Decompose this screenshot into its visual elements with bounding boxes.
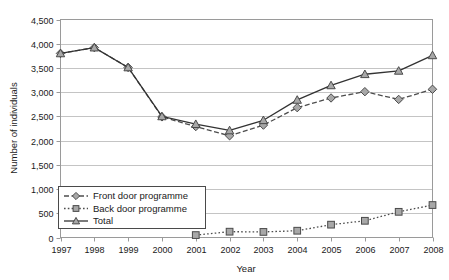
data-point-square [395,208,402,215]
data-point-square [328,221,335,228]
y-tick-label: 3,000 [31,88,54,98]
x-tick-label: 2005 [321,245,341,255]
data-point-triangle [259,116,267,124]
x-axis-title: Year [236,263,255,274]
legend-label: Total [93,215,113,226]
chart-canvas: 05001,0001,5002,0002,5003,0003,5004,0004… [0,0,449,280]
x-axis-tick-labels: 1997199819992000200120022003200420052006… [51,245,443,255]
x-tick-label: 2003 [253,245,273,255]
data-point-square [294,227,301,234]
series-total [56,43,436,133]
y-axis-tick-labels: 05001,0001,5002,0002,5003,0003,5004,0004… [31,16,54,244]
chart-legend: Front door programmeBack door programmeT… [59,187,206,229]
y-tick-label: 2,000 [31,137,54,147]
data-point-square [73,206,79,212]
x-tick-label: 1998 [84,245,104,255]
y-tick-label: 1,000 [31,185,54,195]
data-point-triangle [428,51,436,59]
x-tick-label: 2004 [287,245,307,255]
line-chart: 05001,0001,5002,0002,5003,0003,5004,0004… [0,0,449,280]
legend-label: Front door programme [93,190,188,201]
data-point-triangle [293,96,301,104]
data-point-square [226,228,233,235]
data-point-square [192,232,199,239]
x-tick-label: 2001 [186,245,206,255]
x-tick-label: 2000 [152,245,172,255]
y-tick-label: 2,500 [31,112,54,122]
y-tick-label: 0 [48,234,53,244]
data-point-diamond [394,95,402,103]
data-point-square [362,217,369,224]
y-tick-label: 4,000 [31,40,54,50]
series-back-door-programme [192,202,435,239]
data-point-triangle [394,67,402,75]
y-axis-title: Number of individuals [8,82,19,174]
data-point-diamond [293,103,301,111]
x-tick-label: 1997 [51,245,71,255]
y-tick-label: 1,500 [31,161,54,171]
x-tick-label: 2007 [389,245,409,255]
data-point-square [429,202,436,209]
series-line [61,48,433,131]
x-tick-label: 2006 [355,245,375,255]
y-tick-label: 500 [38,209,53,219]
x-tick-label: 2008 [423,245,443,255]
y-tick-label: 4,500 [31,16,54,26]
x-axis-tick-marks [62,238,434,242]
data-point-diamond [361,87,369,95]
x-tick-label: 2002 [220,245,240,255]
data-point-square [260,229,267,236]
x-tick-label: 1999 [118,245,138,255]
legend-label: Back door programme [93,203,187,214]
data-point-diamond [327,94,335,102]
y-tick-label: 3,500 [31,64,54,74]
